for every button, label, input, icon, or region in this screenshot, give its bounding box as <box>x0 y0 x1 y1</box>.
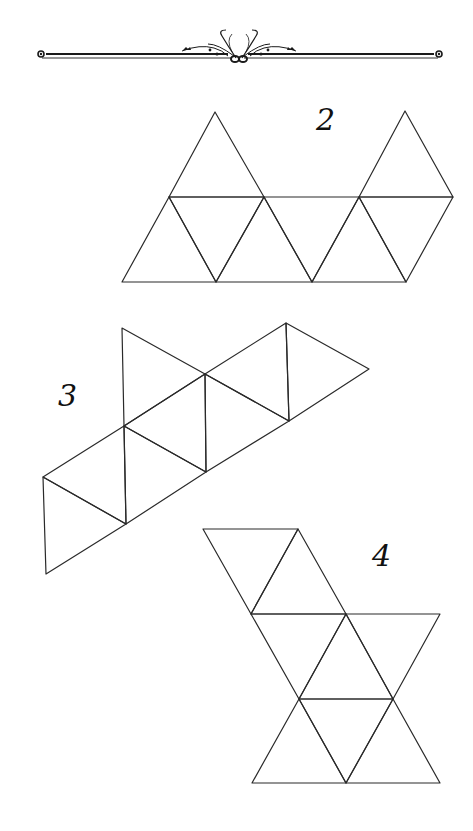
nets-canvas: 2 3 4 <box>0 0 473 831</box>
flourish-icon <box>182 30 296 62</box>
net-4-label: 4 <box>371 538 391 573</box>
triangle-face <box>299 699 393 783</box>
triangle-face <box>359 197 453 282</box>
triangle-face <box>251 529 346 614</box>
net-3-diagram <box>43 323 369 574</box>
triangle-face <box>124 426 206 524</box>
triangle-face <box>251 614 346 699</box>
triangle-face <box>299 614 393 699</box>
triangle-face <box>312 197 406 282</box>
triangle-face <box>346 699 440 783</box>
net-2-diagram <box>122 111 453 282</box>
net-3-label: 3 <box>58 378 77 413</box>
net-4-diagram <box>203 529 440 783</box>
net-2-label: 2 <box>315 102 335 137</box>
triangle-face <box>346 614 440 699</box>
ornament-divider <box>38 30 442 62</box>
triangle-face <box>203 529 298 614</box>
triangle-face <box>122 328 205 426</box>
triangle-face <box>43 477 126 574</box>
triangle-face <box>124 374 206 472</box>
triangle-face <box>169 197 264 282</box>
triangle-face <box>252 699 346 783</box>
triangle-face <box>122 197 216 282</box>
triangle-face <box>216 197 312 282</box>
triangle-face <box>359 111 453 197</box>
triangle-face <box>169 112 264 197</box>
triangle-face <box>205 323 289 421</box>
triangle-face <box>43 426 126 524</box>
triangle-face <box>286 323 369 421</box>
triangle-face <box>205 374 289 472</box>
triangle-face <box>264 197 359 282</box>
